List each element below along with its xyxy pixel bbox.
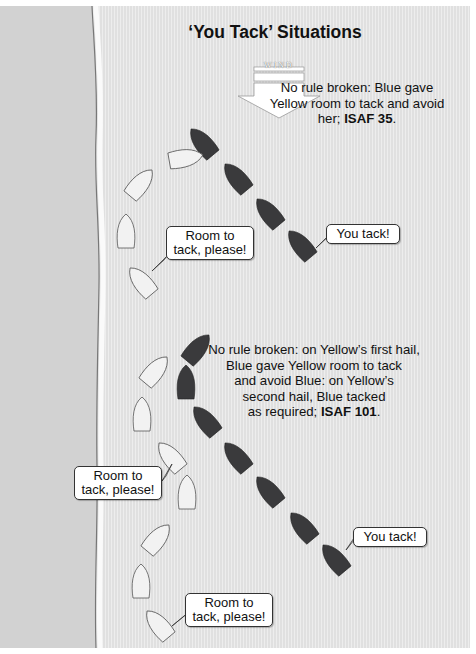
note-line: No rule broken: on Yellow’s first hail, — [205, 342, 423, 358]
scenario-2-note: No rule broken: on Yellow’s first hail, … — [205, 342, 423, 420]
wind-label: WIND — [254, 61, 304, 70]
yellow-hail-bubble-3: Room to tack, please! — [185, 593, 273, 627]
blue-reply-bubble-2: You tack! — [353, 527, 427, 547]
blue-reply-bubble-1: You tack! — [326, 224, 400, 244]
yellow-boats-1 — [117, 146, 204, 299]
scenario-1-note: No rule broken: Blue gave Yellow room to… — [248, 80, 466, 127]
note-line: Blue gave Yellow room to tack — [205, 358, 423, 374]
rule-reference: ISAF 101 — [321, 404, 377, 419]
note-line: her; ISAF 35. — [248, 111, 466, 127]
page-title: ‘You Tack’ Situations — [150, 22, 400, 43]
note-line: as required; ISAF 101. — [205, 404, 423, 420]
note-line: No rule broken: Blue gave — [248, 80, 466, 96]
yellow-hail-bubble-2: Room to tack, please! — [74, 466, 162, 500]
note-line: second hail, Blue tacked — [205, 389, 423, 405]
yellow-hail-bubble-1: Room to tack, please! — [166, 226, 254, 260]
note-line: and avoid Blue: on Yellow’s — [205, 373, 423, 389]
rule-reference: ISAF 35 — [344, 111, 392, 126]
diagram-canvas: ‘You Tack’ Situations WIND No rule broke… — [0, 6, 470, 648]
note-line: Yellow room to tack and avoid — [248, 96, 466, 112]
land-area — [0, 6, 99, 648]
